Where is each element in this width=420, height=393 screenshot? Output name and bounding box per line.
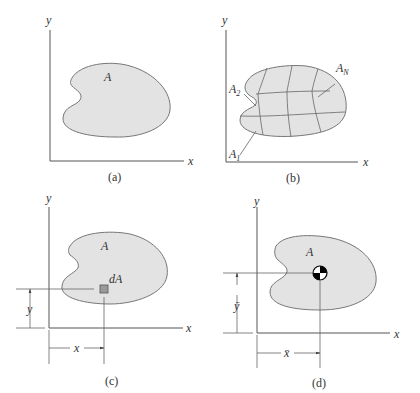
label-a2: A2 [228, 82, 240, 98]
panel-c: y x A dA y x (c) [16, 191, 192, 388]
leader-a1 [240, 131, 256, 155]
y-axis-label: y [253, 194, 260, 208]
caption-b: (b) [286, 171, 300, 185]
centroid-icon [313, 266, 327, 280]
area-shape [240, 66, 346, 137]
area-label: A [305, 245, 314, 259]
dim-x-bar-label: x̄ [283, 346, 290, 360]
y-axis-label: y [45, 13, 52, 27]
area-centroid-figure: y x A (a) y x A1 A2 AN (b) [0, 0, 420, 393]
panel-d: y x A ȳ x̄ (d) [223, 194, 400, 390]
area-label: A [100, 239, 109, 253]
x-axis-label: x [393, 327, 400, 341]
label-an: AN [335, 61, 349, 77]
area-shape [62, 232, 167, 304]
label-a1: A1 [228, 147, 240, 163]
area-label: A [103, 70, 112, 84]
dim-x-label: x [73, 341, 80, 355]
area-shape [63, 63, 170, 137]
differential-element [100, 285, 108, 293]
panel-b: y x A1 A2 AN (b) [221, 13, 369, 185]
y-axis-label: y [45, 191, 52, 205]
caption-d: (d) [312, 376, 326, 390]
dim-y-bar-label: ȳ [233, 299, 240, 313]
x-axis-label: x [187, 154, 194, 168]
dim-y-label: y [26, 302, 33, 316]
panel-a: y x A (a) [45, 13, 194, 184]
x-axis-label: x [185, 321, 192, 335]
x-axis-label: x [362, 155, 369, 169]
caption-c: (c) [105, 374, 118, 388]
element-label: dA [109, 272, 123, 286]
y-axis-label: y [221, 13, 228, 27]
caption-a: (a) [108, 170, 121, 184]
